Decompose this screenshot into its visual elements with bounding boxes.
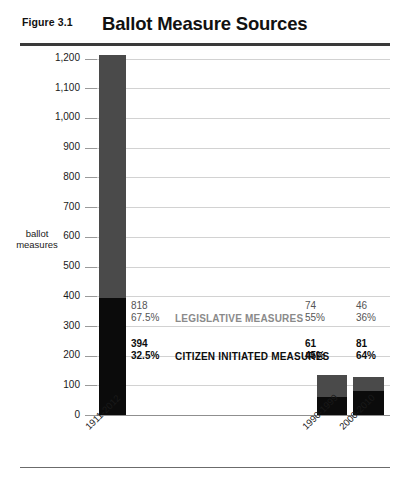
ytick-label-700: 700 — [63, 201, 80, 212]
ytick-label-900: 900 — [63, 141, 80, 152]
percent-2000-2010-legislative: 36% — [356, 312, 376, 323]
y-axis-title-line2: measures — [6, 240, 68, 251]
ytick-900 — [85, 148, 97, 149]
gridline-1200 — [97, 59, 390, 60]
y-axis-title-line1: ballot — [6, 229, 68, 240]
ytick-label-0: 0 — [74, 409, 80, 420]
gridline-500 — [97, 267, 390, 268]
ytick-label-400: 400 — [63, 290, 80, 301]
ytick-1100 — [85, 88, 97, 89]
gridline-1000 — [97, 118, 390, 119]
annotation-2000-2010-legislative: 46 36% — [356, 301, 376, 323]
percent-1911-2012-legislative: 67.5% — [131, 312, 159, 323]
value-1911-2012-legislative: 818 — [131, 301, 159, 312]
gridline-600 — [97, 237, 390, 238]
percent-2000-2010-citizen: 64% — [356, 350, 376, 361]
percent-1990-1999-citizen: 45% — [305, 350, 325, 361]
ytick-200 — [85, 356, 97, 357]
series-label-legislative: LEGISLATIVE MEASURES — [175, 313, 303, 324]
value-2000-2010-citizen: 81 — [356, 339, 376, 350]
ytick-300 — [85, 326, 97, 327]
ytick-label-1000: 1,000 — [55, 111, 80, 122]
ytick-1000 — [85, 118, 97, 119]
annotation-1911-2012-legislative: 818 67.5% — [131, 301, 159, 323]
ytick-700 — [85, 207, 97, 208]
gridline-300 — [97, 326, 390, 327]
plot-area: 1,200 1,100 1,000 900 800 700 600 500 40… — [0, 0, 406, 487]
percent-1911-2012-citizen: 32.5% — [131, 350, 159, 361]
y-axis-title: ballot measures — [6, 229, 68, 250]
value-1990-1999-legislative: 74 — [305, 301, 325, 312]
ytick-800 — [85, 177, 97, 178]
ytick-label-300: 300 — [63, 320, 80, 331]
annotation-2000-2010-citizen: 81 64% — [356, 339, 376, 361]
ytick-label-500: 500 — [63, 260, 80, 271]
ytick-label-100: 100 — [63, 379, 80, 390]
annotation-1911-2012-citizen: 394 32.5% — [131, 339, 159, 361]
ytick-label-200: 200 — [63, 349, 80, 360]
percent-1990-1999-legislative: 55% — [305, 312, 325, 323]
gridline-900 — [97, 148, 390, 149]
bar-2000-2010-legislative — [353, 377, 384, 391]
bar-1911-2012-legislative — [99, 55, 126, 298]
gridline-800 — [97, 177, 390, 178]
annotation-1990-1999-citizen: 61 45% — [305, 339, 325, 361]
ytick-500 — [85, 267, 97, 268]
ytick-100 — [85, 385, 97, 386]
figure-container: Figure 3.1 Ballot Measure Sources 1,200 … — [0, 0, 406, 487]
gridline-400 — [97, 296, 390, 297]
ytick-label-1200: 1,200 — [55, 52, 80, 63]
ytick-label-1100: 1,100 — [55, 82, 80, 93]
ytick-600 — [85, 237, 97, 238]
value-1911-2012-citizen: 394 — [131, 339, 159, 350]
ytick-1200 — [85, 59, 97, 60]
gridline-1100 — [97, 88, 390, 89]
gridline-700 — [97, 207, 390, 208]
footer-rule — [20, 467, 390, 468]
value-2000-2010-legislative: 46 — [356, 301, 376, 312]
ytick-label-800: 800 — [63, 171, 80, 182]
value-1990-1999-citizen: 61 — [305, 339, 325, 350]
ytick-400 — [85, 296, 97, 297]
annotation-1990-1999-legislative: 74 55% — [305, 301, 325, 323]
